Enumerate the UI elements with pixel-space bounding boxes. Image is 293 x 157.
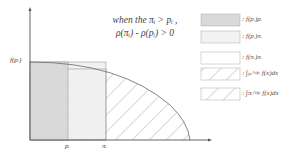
legend-label-4: : ∫ₚᵢ^∞ f(x)dx [242,69,278,77]
legend-label-1: : f(pᵢ)pᵢ [242,15,262,23]
condition-line-2: ρ(πᵢ) - ρ(pᵢ) > 0 [90,27,200,40]
legend-swatch-dark [201,14,240,26]
legend-swatch-hatch-1 [201,68,240,80]
legend-label-5: : ∫πᵢ^∞ f(x)dx [242,89,279,97]
condition-line-1: when the πᵢ > pᵢ , [90,14,200,27]
condition-text: when the πᵢ > pᵢ , ρ(πᵢ) - ρ(pᵢ) > 0 [90,14,200,40]
legend-swatch-light [201,31,240,43]
legend-label-2: : f(pᵢ)πᵢ [242,32,262,40]
legend-swatch-white [201,52,240,64]
y-axis-arrow-icon [29,7,32,11]
x-tick-label-p: pᵢ [65,142,70,150]
x-tick-label-pi: πᵢ [102,142,107,150]
x-axis-arrow-icon [208,139,212,142]
legend-label-3: : f(πᵢ)πᵢ [242,53,262,61]
legend-swatches [201,14,240,100]
legend-swatch-hatch-2 [201,88,240,100]
rect-fp-p [30,62,68,140]
y-tick-label: f(pᵢ) [10,56,21,64]
